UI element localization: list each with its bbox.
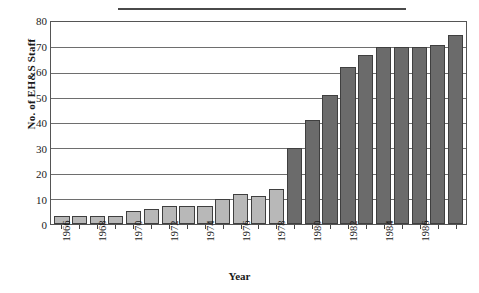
x-axis-tick-labels: 1966196819701972197419761978198019821984… (50, 230, 467, 266)
bar[interactable] (340, 67, 355, 224)
x-label-slot: 1970 (124, 230, 142, 266)
x-tick-mark (294, 225, 295, 229)
x-tick-mark (151, 225, 152, 229)
x-tick-mark (456, 225, 457, 229)
bar-slot (107, 22, 125, 224)
bar-slot (53, 22, 71, 224)
bar[interactable] (215, 199, 230, 224)
bar-slot (214, 22, 232, 224)
x-label-slot: 1978 (267, 230, 285, 266)
x-label-slot (429, 230, 447, 266)
y-axis-tick-label: 0 (42, 219, 48, 231)
bar-slot (428, 22, 446, 224)
bar-slot (268, 22, 286, 224)
x-label-slot (214, 230, 232, 266)
bar-slot (232, 22, 250, 224)
y-axis-tick-label: 60 (36, 66, 47, 78)
bar[interactable] (108, 216, 123, 224)
x-tick-mark (438, 225, 439, 229)
x-label-slot (393, 230, 411, 266)
bar-slot (160, 22, 178, 224)
y-axis-tick-label: 10 (36, 194, 47, 206)
bar[interactable] (233, 194, 248, 224)
x-label-slot (357, 230, 375, 266)
y-axis-tick-label: 20 (36, 168, 47, 180)
bar-slot (178, 22, 196, 224)
bar[interactable] (287, 148, 302, 224)
y-axis-tick-label: 30 (36, 143, 47, 155)
x-axis-title: Year (0, 270, 479, 282)
bar[interactable] (322, 95, 337, 224)
bar-slot (446, 22, 464, 224)
chart-figure: No. of EH&S Staff 01020304050607080 1966… (0, 0, 479, 293)
x-label-slot: 1986 (411, 230, 429, 266)
x-tick-mark (366, 225, 367, 229)
x-label-slot: 1974 (196, 230, 214, 266)
bar[interactable] (376, 47, 391, 224)
x-tick-mark (330, 225, 331, 229)
bar-series (51, 22, 466, 224)
x-label-slot: 1984 (375, 230, 393, 266)
x-tick-mark (79, 225, 80, 229)
bar-slot (250, 22, 268, 224)
x-label-slot (447, 230, 465, 266)
x-tick-mark (223, 225, 224, 229)
bar[interactable] (144, 209, 159, 224)
y-axis-tick-label: 50 (36, 92, 47, 104)
bar-slot (393, 22, 411, 224)
bar-slot (339, 22, 357, 224)
x-label-slot: 1980 (303, 230, 321, 266)
y-axis-tick-label: 40 (36, 117, 47, 129)
bar[interactable] (72, 216, 87, 224)
bar[interactable] (179, 206, 194, 224)
plot-area (50, 21, 467, 225)
x-label-slot (249, 230, 267, 266)
x-label-slot (178, 230, 196, 266)
bar-slot (411, 22, 429, 224)
bar[interactable] (412, 47, 427, 224)
bar[interactable] (394, 47, 409, 224)
x-label-slot: 1966 (52, 230, 70, 266)
x-label-slot (285, 230, 303, 266)
bar-slot (357, 22, 375, 224)
x-tick-mark (187, 225, 188, 229)
x-label-slot (106, 230, 124, 266)
bar-slot (321, 22, 339, 224)
x-label-slot (142, 230, 160, 266)
bar[interactable] (448, 35, 463, 224)
bar[interactable] (269, 189, 284, 224)
x-label-slot: 1982 (339, 230, 357, 266)
y-axis-tick-label: 70 (36, 41, 47, 53)
x-tick-mark (115, 225, 116, 229)
x-label-slot (321, 230, 339, 266)
bar[interactable] (251, 196, 266, 224)
bar-slot (142, 22, 160, 224)
bar-slot (196, 22, 214, 224)
x-tick-mark (258, 225, 259, 229)
y-axis-tick-labels: 01020304050607080 (20, 21, 47, 225)
bar-slot (303, 22, 321, 224)
bar-slot (71, 22, 89, 224)
x-label-slot: 1968 (88, 230, 106, 266)
top-divider-rule (118, 8, 406, 10)
bar[interactable] (305, 120, 320, 224)
bar-slot (125, 22, 143, 224)
bar-slot (375, 22, 393, 224)
bar-slot (285, 22, 303, 224)
bar[interactable] (358, 55, 373, 224)
y-axis-tick-label: 80 (36, 15, 47, 27)
x-label-slot: 1972 (160, 230, 178, 266)
x-tick-mark (402, 225, 403, 229)
bar-slot (89, 22, 107, 224)
x-label-slot: 1976 (232, 230, 250, 266)
bar[interactable] (430, 45, 445, 224)
x-label-slot (70, 230, 88, 266)
